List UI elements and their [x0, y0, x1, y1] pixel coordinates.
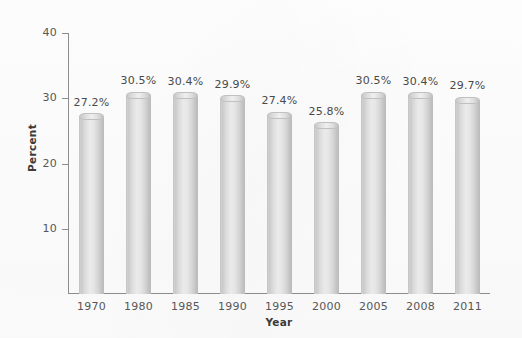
- x-tick-label: 1980: [115, 300, 162, 313]
- y-tick-label: 10: [31, 222, 57, 235]
- bar-value-label: 30.4%: [162, 75, 209, 88]
- bar-group[interactable]: 30.4%: [162, 33, 209, 294]
- bar-value-label: 25.8%: [303, 105, 350, 118]
- bar-value-label: 30.5%: [115, 74, 162, 87]
- bar-group[interactable]: 29.7%: [444, 33, 491, 294]
- x-tick-group: 1980: [115, 293, 162, 311]
- x-tick-label: 2008: [397, 300, 444, 313]
- bar-value-label: 27.4%: [256, 94, 303, 107]
- bar[interactable]: [126, 95, 151, 294]
- bar-top-cap: [79, 113, 104, 120]
- x-tick-label: 1985: [162, 300, 209, 313]
- bar-group[interactable]: 30.5%: [115, 33, 162, 294]
- bar-top-cap: [314, 122, 339, 129]
- bar-value-label: 30.4%: [397, 75, 444, 88]
- x-tick-label: 2005: [350, 300, 397, 313]
- x-axis-title: Year: [68, 316, 490, 328]
- bar-top-cap: [173, 92, 198, 99]
- x-tick-group: 2008: [397, 293, 444, 311]
- bar[interactable]: [173, 96, 198, 294]
- bar-group[interactable]: 27.4%: [256, 33, 303, 294]
- x-tick-group: 2005: [350, 293, 397, 311]
- bar-top-cap: [361, 92, 386, 99]
- y-axis-title: Percent: [26, 108, 38, 188]
- bar-top-cap: [126, 92, 151, 99]
- bar[interactable]: [455, 100, 480, 294]
- x-tick-label: 1970: [68, 300, 115, 313]
- x-tick-group: 2000: [303, 293, 350, 311]
- bar-top-cap: [220, 95, 245, 102]
- y-tick-label: 30: [31, 91, 57, 104]
- x-tick-label: 2000: [303, 300, 350, 313]
- bar-value-label: 29.7%: [444, 79, 491, 92]
- bar[interactable]: [408, 96, 433, 294]
- bar-top-cap: [408, 92, 433, 99]
- bar-chart-figure: 10203040 Percent 19701980198519901995200…: [0, 0, 522, 338]
- bar-value-label: 30.5%: [350, 74, 397, 87]
- bar-group[interactable]: 27.2%: [68, 33, 115, 294]
- x-tick-group: 1995: [256, 293, 303, 311]
- y-tick-label: 40: [31, 26, 57, 39]
- bar[interactable]: [314, 126, 339, 294]
- x-tick-label: 1995: [256, 300, 303, 313]
- plot-area: 27.2%30.5%30.4%29.9%27.4%25.8%30.5%30.4%…: [68, 33, 490, 294]
- bar[interactable]: [267, 115, 292, 294]
- x-tick-label: 2011: [444, 300, 491, 313]
- x-tick-label: 1990: [209, 300, 256, 313]
- bar-value-label: 29.9%: [209, 78, 256, 91]
- x-tick-group: 1990: [209, 293, 256, 311]
- x-tick-group: 2011: [444, 293, 491, 311]
- bar[interactable]: [79, 117, 104, 294]
- x-tick-group: 1970: [68, 293, 115, 311]
- bar[interactable]: [220, 99, 245, 294]
- x-tick-group: 1985: [162, 293, 209, 311]
- bar-group[interactable]: 30.4%: [397, 33, 444, 294]
- bar-top-cap: [267, 112, 292, 119]
- bar-group[interactable]: 29.9%: [209, 33, 256, 294]
- bar-value-label: 27.2%: [68, 96, 115, 109]
- bar-top-cap: [455, 97, 480, 104]
- bar-group[interactable]: 30.5%: [350, 33, 397, 294]
- bar[interactable]: [361, 95, 386, 294]
- bar-group[interactable]: 25.8%: [303, 33, 350, 294]
